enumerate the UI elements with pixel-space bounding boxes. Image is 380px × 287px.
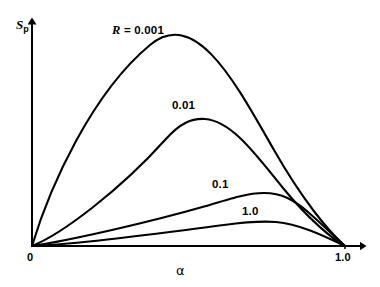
curve-label-r-0p01: 0.01 — [172, 100, 195, 112]
plot-canvas — [0, 0, 380, 287]
curve-label-value: 0.001 — [134, 24, 164, 36]
curve-label-r-0p001: R = 0.001 — [112, 24, 164, 37]
curve-label-r-0p1: 0.1 — [212, 179, 229, 191]
x-tick-label-0: 0 — [27, 252, 33, 263]
alpha-symbol: α — [176, 263, 185, 278]
y-axis-subscript: p — [23, 24, 29, 34]
x-axis-title: α — [176, 264, 185, 277]
curve-r-0p001 — [32, 35, 345, 246]
curve-label-r-1p0: 1.0 — [242, 206, 259, 218]
curve-r-1p0 — [32, 222, 345, 246]
curve-r-0p1 — [32, 193, 345, 246]
y-axis-title: Sp — [16, 18, 29, 34]
chart-figure: Sp α 0 1.0 R = 0.001 0.01 0.1 1.0 — [0, 0, 380, 287]
curve-label-equals: = — [121, 24, 135, 36]
x-tick-label-1: 1.0 — [335, 252, 351, 263]
curve-label-prefix: R — [112, 23, 121, 37]
